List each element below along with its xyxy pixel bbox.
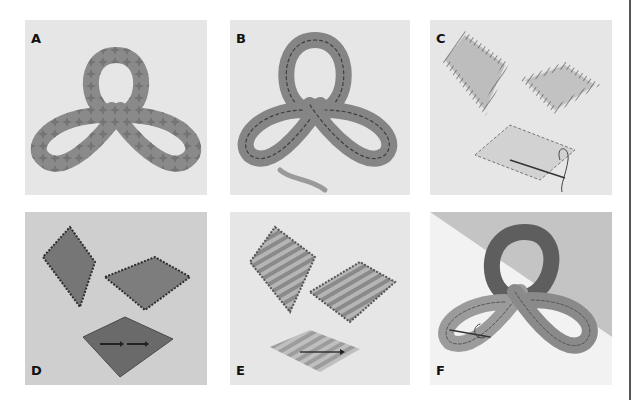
pinked-diamonds-illustration: [25, 212, 207, 385]
panel-label: E: [236, 364, 245, 377]
panel-label: D: [31, 364, 42, 377]
satin-stitch-diamonds-illustration: [430, 20, 612, 195]
panel-f: F: [430, 212, 612, 385]
panel-a: A: [25, 20, 207, 195]
panel-label: A: [31, 32, 41, 45]
panel-label: C: [436, 32, 446, 45]
striped-zigzag-diamonds-illustration: [230, 212, 410, 385]
panel-c: C: [430, 20, 612, 195]
panel-label: B: [236, 32, 246, 45]
trefoil-knot-overlay-illustration: [430, 212, 612, 385]
trefoil-knot-star-stitch-illustration: [25, 20, 207, 195]
panel-b: B: [230, 20, 410, 195]
panel-label: F: [436, 364, 445, 377]
panel-d: D: [25, 212, 207, 385]
trefoil-knot-running-stitch-illustration: [230, 20, 410, 195]
page-edge-rule: [629, 0, 631, 400]
panel-e: E: [230, 212, 410, 385]
